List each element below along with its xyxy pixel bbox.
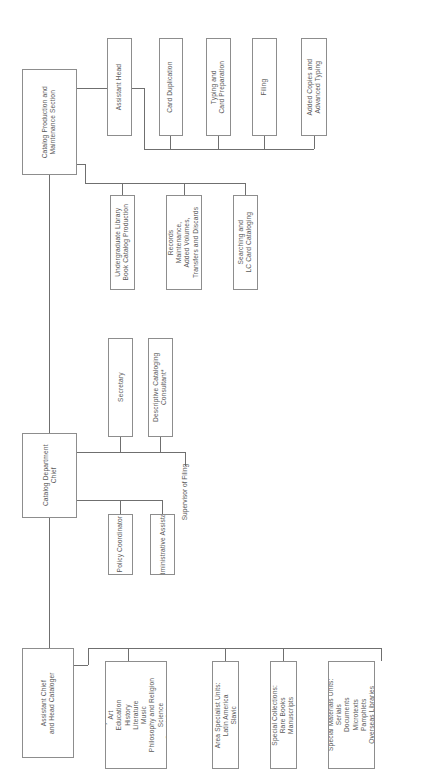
node-label: Assistant Head <box>115 64 123 110</box>
connector-chief-staff-bus <box>77 452 185 453</box>
connector-bus-to-subject-units <box>128 648 129 661</box>
connector-assistant-chief-to-bus <box>74 665 88 666</box>
connector-production-to-unit-bus <box>77 164 85 165</box>
node-filing[interactable]: Filing <box>252 38 277 136</box>
node-catalog-production-and-maintenance-section[interactable]: Catalog Production and Maintenance Secti… <box>22 69 77 175</box>
node-label: Catalog Production and Maintenance Secti… <box>41 86 57 158</box>
connector-bus-to-searching <box>245 183 246 195</box>
node-label: Area Specialist Units: Latin America Sla… <box>213 682 238 748</box>
connector-bus-to-secretary <box>120 437 121 452</box>
connector-bus-to-undergraduate <box>122 183 123 195</box>
node-descriptive-cataloging-consultant[interactable]: Descriptive Cataloging Consultant* <box>148 338 173 437</box>
connector-chief-to-assistant-chief-spine <box>49 518 50 648</box>
node-catalog-department-chief[interactable]: Catalog Department Chief <box>22 433 77 518</box>
node-special-materials-units[interactable]: Special Materials Units: Serials Documen… <box>328 661 375 769</box>
connector-unit-bus-stem <box>85 164 86 183</box>
node-searching-and-lc-card-cataloging[interactable]: Searching and LC Card Cataloging <box>233 195 258 290</box>
node-supervisor-of-filing[interactable]: Supervisor of Filing <box>175 455 195 529</box>
node-subject-units[interactable]: Subject Units: Art Education History Lit… <box>105 661 167 769</box>
node-special-collections[interactable]: Special Collections: Rare Books Manuscri… <box>270 661 297 769</box>
connector-bus-to-area-specialist-units <box>225 648 226 661</box>
node-label: Descriptive Cataloging Consultant* <box>152 353 168 422</box>
org-chart-canvas: Catalog Production and Maintenance Secti… <box>0 0 435 783</box>
connector-bus-to-policy-coordinator <box>120 500 121 514</box>
connector-bus-to-typing-and-card-preparation <box>218 136 219 149</box>
connector-assistant-head-to-stem <box>132 88 145 89</box>
node-label: Added Copies and Advanced Typing <box>306 59 322 116</box>
connector-bus-to-filing <box>264 136 265 149</box>
node-assistant-head[interactable]: Assistant Head <box>107 38 132 136</box>
connector-cataloging-units-bus <box>88 648 381 649</box>
node-label: Undergraduate Library Book Catalog Produ… <box>114 204 130 280</box>
connector-bus-to-descriptive-consultant <box>160 437 161 452</box>
node-undergraduate-library-book-catalog-production[interactable]: Undergraduate Library Book Catalog Produ… <box>110 195 135 290</box>
node-label: Administrative Assistant <box>158 514 166 575</box>
node-card-duplication[interactable]: Card Duplication <box>159 38 183 136</box>
connector-bus-to-special-collections <box>283 648 284 661</box>
connector-bus-to-administrative-assistant <box>162 500 163 514</box>
node-label: Typing and Card Preparation <box>210 61 226 114</box>
node-label: Subject Units: Art Education History Lit… <box>105 678 167 752</box>
node-label: Policy Coordinator <box>116 516 124 573</box>
node-added-copies-and-advanced-typing[interactable]: Added Copies and Advanced Typing <box>301 38 327 136</box>
connector-bus-to-special-materials-units <box>381 648 382 661</box>
node-typing-and-card-preparation[interactable]: Typing and Card Preparation <box>206 38 231 136</box>
connector-bus-to-added-copies <box>314 136 315 149</box>
node-label: Assistant Chief and Head Cataloger <box>40 672 56 734</box>
node-records-maintenance[interactable]: Records Maintenance, Added Volumes, Tran… <box>166 195 202 290</box>
node-secretary[interactable]: Secretary <box>108 338 133 437</box>
node-assistant-chief-and-head-cataloger[interactable]: Assistant Chief and Head Cataloger <box>22 648 74 758</box>
connector-chief-to-production-spine <box>49 175 50 433</box>
node-label: Supervisor of Filing <box>181 464 189 520</box>
connector-unit-bus <box>85 183 245 184</box>
node-area-specialist-units[interactable]: Area Specialist Units: Latin America Sla… <box>212 661 239 769</box>
connector-production-to-assistant-head <box>77 88 107 89</box>
node-administrative-assistant[interactable]: Administrative Assistant <box>150 514 175 575</box>
node-label: Records Maintenance, Added Volumes, Tran… <box>168 207 201 278</box>
node-label: Special Materials Units: Serials Documen… <box>328 679 375 752</box>
connector-bus-to-card-duplication <box>170 136 171 149</box>
node-label: Filing <box>260 79 268 96</box>
node-label: Special Collections: Rare Books Manuscri… <box>271 685 296 746</box>
connector-assistant-head-bus <box>144 149 314 150</box>
connector-assistant-head-stem <box>144 88 145 149</box>
node-label: Card Duplication <box>167 61 175 112</box>
node-label: Catalog Department Chief <box>41 445 57 507</box>
connector-units-bus-stem <box>88 648 89 665</box>
connector-bus-to-records <box>184 183 185 195</box>
node-label: Secretary <box>116 373 124 403</box>
node-policy-coordinator[interactable]: Policy Coordinator <box>108 514 133 575</box>
node-label: Searching and LC Card Cataloging <box>237 212 253 273</box>
